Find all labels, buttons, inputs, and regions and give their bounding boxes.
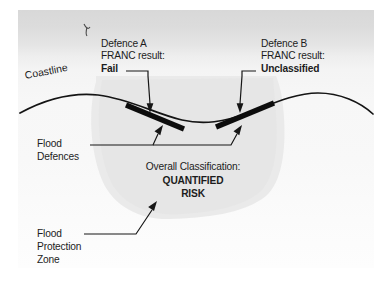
defence-b-result: Unclassified <box>261 63 319 75</box>
overall-classification-value-line2: RISK <box>98 188 288 200</box>
flood-protection-zone-label-line2: Protection <box>37 241 81 253</box>
defence-a-result: Fail <box>101 63 118 75</box>
defence-a-title-line1: Defence A <box>101 38 147 50</box>
flood-defences-label-line1: Flood <box>37 138 62 150</box>
diagram-canvas: Coastline Defence A FRANC result: Fail D… <box>18 10 374 268</box>
defence-b-title-line2: FRANC result: <box>261 50 325 62</box>
defence-b-title-line1: Defence B <box>261 38 307 50</box>
flood-defences-label-line2: Defences <box>37 151 79 163</box>
overall-classification-heading: Overall Classification: <box>98 161 288 173</box>
overall-classification-value-line1: QUANTIFIED <box>98 175 288 187</box>
defence-a-title-line2: FRANC result: <box>101 50 165 62</box>
flood-protection-zone-label-line1: Flood <box>37 228 62 240</box>
diagram-vector-layer <box>18 10 374 268</box>
diagram-figure: Coastline Defence A FRANC result: Fail D… <box>0 0 388 284</box>
scribble-mark-icon <box>84 24 90 36</box>
flood-protection-zone-label-line3: Zone <box>37 254 60 266</box>
